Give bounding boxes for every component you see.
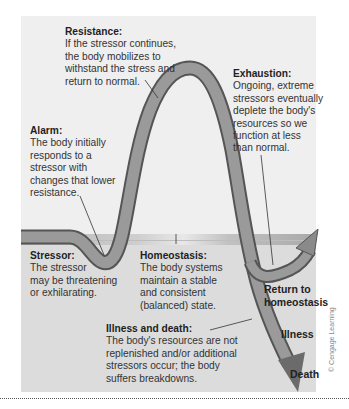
- death-label: Death: [290, 368, 319, 381]
- homeostasis-label: Homeostasis: The body systems maintain a…: [140, 250, 240, 312]
- stressor-label: Stressor: The stressor may be threatenin…: [30, 250, 130, 300]
- exhaustion-leader-line: [261, 155, 273, 265]
- dotted-divider: [0, 398, 349, 399]
- return-arrowhead-icon: [296, 229, 318, 256]
- return-to-homeostasis-label: Return to homeostasis: [264, 283, 328, 309]
- resistance-label: Resistance: If the stressor continues, t…: [65, 26, 195, 88]
- illness-death-label: Illness and death: The body's resources …: [106, 323, 276, 385]
- alarm-label: Alarm: The body initially responds to a …: [30, 125, 130, 199]
- illness-label: Illness: [281, 328, 314, 341]
- copyright-credit: © Cengage Learning: [328, 307, 335, 372]
- exhaustion-label: Exhaustion: Ongoing, extreme stressors e…: [233, 68, 343, 155]
